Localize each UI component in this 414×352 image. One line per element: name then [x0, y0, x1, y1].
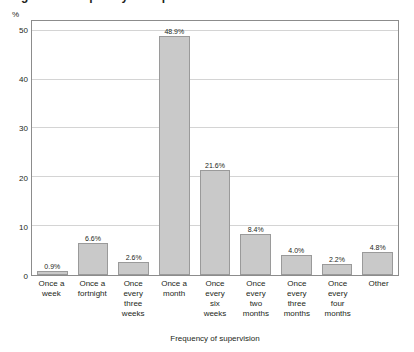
bar-value-label: 2.6%: [113, 254, 154, 261]
bar[interactable]: [362, 252, 393, 275]
x-axis-category-line: every: [317, 289, 358, 299]
y-axis-tick-label: 20: [4, 173, 28, 182]
y-axis-tick-labels: 01020304050: [0, 20, 28, 276]
x-axis-category-line: months: [276, 309, 317, 319]
x-axis-category-label: Onceeverytwomonths: [235, 279, 276, 319]
y-axis-tick-label: 0: [4, 272, 28, 281]
x-axis-category-label: Onceeverythreemonths: [276, 279, 317, 319]
x-axis-category-line: weeks: [195, 309, 236, 319]
bar-slot: 0.9%: [32, 21, 73, 275]
x-axis-category-line: every: [235, 289, 276, 299]
bar-value-label: 48.9%: [154, 28, 195, 35]
bar-slot: 8.4%: [235, 21, 276, 275]
x-axis-category-line: three: [113, 299, 154, 309]
x-axis-category-line: every: [195, 289, 236, 299]
x-axis-category-label: Once amonth: [154, 279, 195, 299]
bar-slot: 2.2%: [317, 21, 358, 275]
x-axis-category-line: three: [276, 299, 317, 309]
x-axis-category-label: Once everythreeweeks: [113, 279, 154, 319]
bar-value-label: 21.6%: [195, 162, 236, 169]
x-axis-category-label: Other: [358, 279, 399, 289]
x-axis-category-line: Once: [276, 279, 317, 289]
y-axis-unit-label: %: [12, 10, 19, 19]
x-axis-category-line: Once a: [72, 279, 113, 289]
x-axis-category-line: Once: [235, 279, 276, 289]
x-axis-category-line: two: [235, 299, 276, 309]
x-axis-category-line: Other: [358, 279, 399, 289]
bar-value-label: 4.0%: [276, 247, 317, 254]
x-axis-category-label: Onceeverysixweeks: [195, 279, 236, 319]
bar[interactable]: [37, 271, 68, 275]
x-axis-category-line: four: [317, 299, 358, 309]
x-axis-category-line: months: [317, 309, 358, 319]
x-axis-category-line: Once a: [31, 279, 72, 289]
bar-slot: 6.6%: [73, 21, 114, 275]
bar-slot: 4.8%: [357, 21, 398, 275]
bar[interactable]: [200, 170, 231, 276]
x-axis-category-line: weeks: [113, 309, 154, 319]
bar[interactable]: [281, 255, 312, 275]
bar-value-label: 4.8%: [357, 244, 398, 251]
x-axis-title: Frequency of supervision: [31, 334, 399, 343]
bar-value-label: 0.9%: [32, 263, 73, 270]
bar[interactable]: [118, 262, 149, 275]
x-axis-category-line: months: [235, 309, 276, 319]
x-axis-category-line: Once: [317, 279, 358, 289]
y-axis-tick-label: 10: [4, 222, 28, 231]
x-axis-category-line: Once a: [154, 279, 195, 289]
x-axis-category-line: Once: [195, 279, 236, 289]
bar-chart: % 01020304050 0.9%6.6%2.6%48.9%21.6%8.4%…: [0, 0, 414, 352]
x-axis-category-label: Once aweek: [31, 279, 72, 299]
bar[interactable]: [240, 234, 271, 275]
bar-slot: 2.6%: [113, 21, 154, 275]
bar-value-label: 6.6%: [73, 235, 114, 242]
x-axis-category-line: every: [276, 289, 317, 299]
bar[interactable]: [78, 243, 109, 275]
bar-slot: 4.0%: [276, 21, 317, 275]
x-axis-category-line: six: [195, 299, 236, 309]
bar-slot: 48.9%: [154, 21, 195, 275]
y-axis-tick-label: 50: [4, 25, 28, 34]
plot-area: 0.9%6.6%2.6%48.9%21.6%8.4%4.0%2.2%4.8%: [31, 20, 399, 276]
x-axis-category-label: Onceeveryfourmonths: [317, 279, 358, 319]
bar[interactable]: [159, 36, 190, 275]
bar[interactable]: [322, 264, 353, 275]
y-axis-tick-label: 40: [4, 75, 28, 84]
x-axis-category-label: Once afortnight: [72, 279, 113, 299]
x-axis-category-line: month: [154, 289, 195, 299]
x-axis-category-line: Once every: [113, 279, 154, 299]
bar-value-label: 8.4%: [235, 226, 276, 233]
bar-slot: 21.6%: [195, 21, 236, 275]
bars-layer: 0.9%6.6%2.6%48.9%21.6%8.4%4.0%2.2%4.8%: [32, 21, 398, 275]
x-axis-category-line: fortnight: [72, 289, 113, 299]
y-axis-tick-label: 30: [4, 124, 28, 133]
x-axis-category-labels: Once aweekOnce afortnightOnce everythree…: [31, 279, 399, 331]
x-axis-category-line: week: [31, 289, 72, 299]
bar-value-label: 2.2%: [317, 256, 358, 263]
